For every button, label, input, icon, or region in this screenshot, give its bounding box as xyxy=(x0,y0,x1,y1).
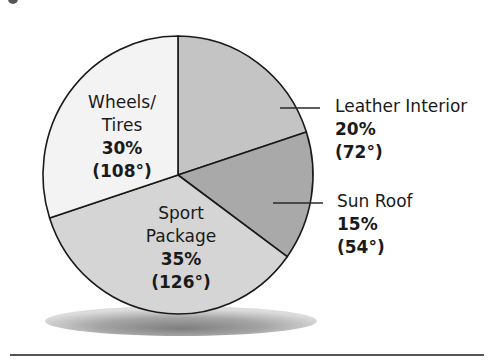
label-wheels-degrees: (108°) xyxy=(88,160,156,183)
label-leather-interior: Leather Interior 20% (72°) xyxy=(335,95,467,164)
label-sunroof-degrees: (54°) xyxy=(337,236,413,259)
label-sunroof-percent: 15% xyxy=(337,213,413,236)
label-leather-name: Leather Interior xyxy=(335,95,467,118)
label-sport-package: Sport Package 35% (126°) xyxy=(146,202,216,294)
horizontal-rule xyxy=(10,354,484,356)
label-sun-roof: Sun Roof 15% (54°) xyxy=(337,190,413,259)
label-sport-degrees: (126°) xyxy=(146,271,216,294)
label-sport-name-2: Package xyxy=(146,225,216,248)
label-wheels-name-2: Tires xyxy=(88,114,156,137)
label-sunroof-name: Sun Roof xyxy=(337,190,413,213)
pie-chart xyxy=(0,0,503,360)
label-sport-name-1: Sport xyxy=(146,202,216,225)
label-wheels-name-1: Wheels/ xyxy=(88,91,156,114)
label-wheels-percent: 30% xyxy=(88,137,156,160)
label-leather-percent: 20% xyxy=(335,118,467,141)
label-sport-percent: 35% xyxy=(146,248,216,271)
label-leather-degrees: (72°) xyxy=(335,141,467,164)
label-wheels-tires: Wheels/ Tires 30% (108°) xyxy=(88,91,156,183)
